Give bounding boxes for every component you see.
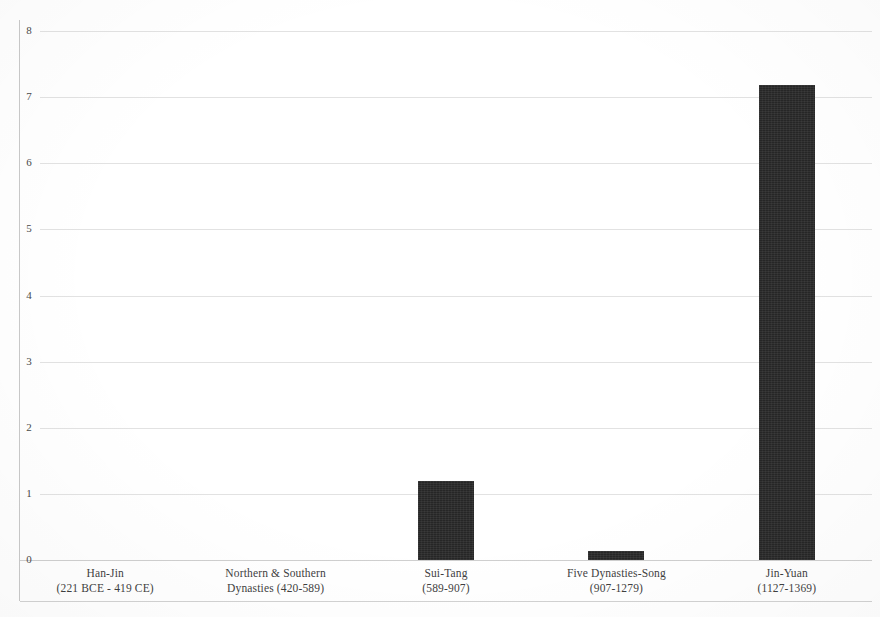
x-label-2-line2: (589-907) [361,581,531,596]
x-label-2-line1: Sui-Tang [361,566,531,581]
bar-3 [588,551,644,560]
x-label-0-line2: (221 BCE - 419 CE) [20,581,190,596]
x-axis-bottom-rule [20,601,872,602]
bar-chart: 012345678 Han-Jin(221 BCE - 419 CE)North… [0,0,880,617]
x-axis-category-labels: Han-Jin(221 BCE - 419 CE)Northern & Sout… [20,566,872,600]
x-label-0-line1: Han-Jin [20,566,190,581]
x-label-3-line2: (907-1279) [531,581,701,596]
x-label-1-line1: Northern & Southern [190,566,360,581]
x-label-1: Northern & SouthernDynasties (420-589) [190,566,360,600]
bar-4 [759,85,815,560]
x-label-2: Sui-Tang(589-907) [361,566,531,600]
bar-series [0,0,880,617]
x-label-0: Han-Jin(221 BCE - 419 CE) [20,566,190,600]
x-label-4: Jin-Yuan(1127-1369) [702,566,872,600]
x-label-4-line2: (1127-1369) [702,581,872,596]
x-label-3-line1: Five Dynasties-Song [531,566,701,581]
bar-2 [418,481,474,560]
x-label-4-line1: Jin-Yuan [702,566,872,581]
x-label-1-line2: Dynasties (420-589) [190,581,360,596]
x-label-3: Five Dynasties-Song(907-1279) [531,566,701,600]
